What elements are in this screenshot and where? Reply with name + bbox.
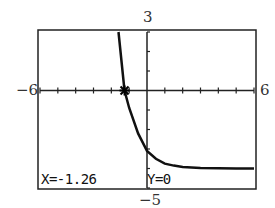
trace-cursor-icon <box>120 86 130 96</box>
xmax-label: 6 <box>260 81 270 99</box>
x-readout: X=-1.26 <box>41 171 97 187</box>
xmin-label: −6 <box>16 81 38 99</box>
axes <box>40 32 254 188</box>
ymax-label: 3 <box>143 8 153 26</box>
ymin-label: −5 <box>139 191 161 208</box>
y-readout: Y=0 <box>147 171 171 187</box>
function-curve <box>119 32 255 169</box>
